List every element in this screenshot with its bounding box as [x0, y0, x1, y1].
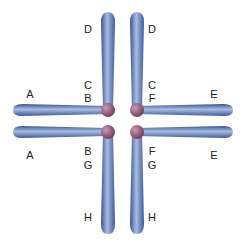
label-a-lower: A [24, 150, 36, 161]
label-e-lower: E [208, 150, 220, 161]
label-a-upper: A [24, 89, 36, 100]
label-f-upper: F [146, 93, 158, 104]
arm-top-right [130, 12, 144, 110]
label-h-left: H [82, 212, 94, 223]
label-b-lower: B [82, 146, 94, 157]
label-g-left: G [82, 160, 94, 171]
arm-left-upper [13, 104, 108, 116]
label-g-right: G [146, 160, 158, 171]
label-e-upper: E [208, 89, 220, 100]
arm-bottom-right [130, 132, 144, 234]
label-f-lower: F [146, 146, 158, 157]
tetrad-diagram [0, 0, 246, 246]
label-d-right: D [146, 24, 158, 35]
label-b-upper: B [82, 93, 94, 104]
arm-bottom-left [101, 132, 115, 234]
centromere-upper-left [101, 103, 115, 117]
centromere-lower-right [130, 125, 144, 139]
label-h-right: H [146, 212, 158, 223]
centromere-upper-right [130, 103, 144, 117]
arm-right-upper [137, 104, 233, 116]
centromere-lower-left [101, 125, 115, 139]
arm-top-left [101, 12, 115, 110]
label-c-right: C [146, 80, 158, 91]
label-c-left: C [82, 80, 94, 91]
arm-left-lower [13, 126, 108, 138]
label-d-left: D [82, 24, 94, 35]
arm-right-lower [137, 126, 233, 138]
